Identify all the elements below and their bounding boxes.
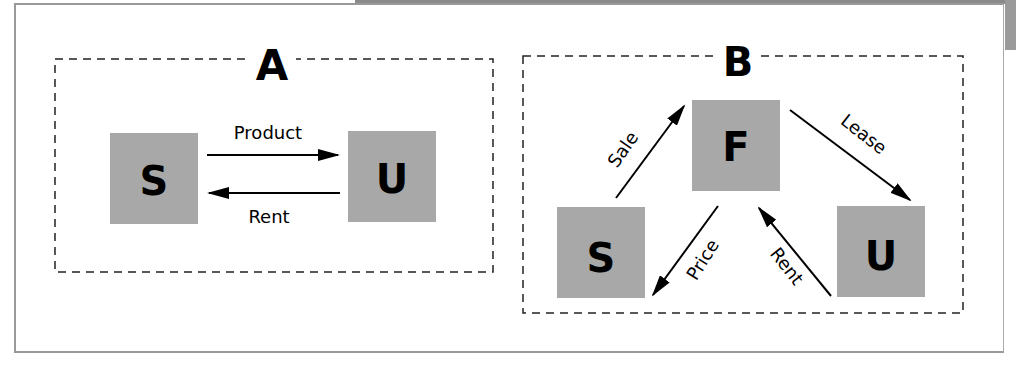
diagram-a-title: A <box>256 41 289 90</box>
edge-a-product-label: Product <box>234 122 302 143</box>
diagram-a: A S U Product Rent <box>55 41 493 272</box>
edge-a-rent-label: Rent <box>248 206 289 227</box>
diagram-b: B F S U Sale Lease Price Rent <box>523 39 963 313</box>
edge-b-rent-label: Rent <box>766 243 808 288</box>
node-b-u-label: U <box>865 233 897 279</box>
node-a-s-label: S <box>140 158 169 204</box>
edge-b-price-label: Price <box>682 235 723 283</box>
diagram-b-title: B <box>723 39 754 85</box>
node-b-f-label: F <box>722 124 749 170</box>
diagram-canvas: A S U Product Rent B F S U Sale Lease Pr… <box>0 0 1016 368</box>
node-a-u-label: U <box>376 156 408 202</box>
edge-b-sale-label: Sale <box>603 127 642 171</box>
node-b-s-label: S <box>587 235 616 281</box>
